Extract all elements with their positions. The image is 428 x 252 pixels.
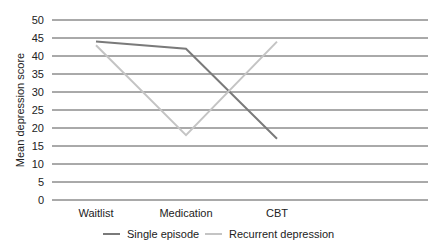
line-chart: 05101520253035404550 Mean depression sco… <box>0 0 428 252</box>
y-axis-label: Mean depression score <box>14 53 26 167</box>
y-tick-label: 0 <box>38 194 44 206</box>
y-tick-label: 15 <box>32 140 44 152</box>
y-tick-label: 10 <box>32 158 44 170</box>
legend-label: Single episode <box>127 228 199 240</box>
x-category-label: Medication <box>159 207 212 219</box>
x-axis-categories: WaitlistMedicationCBT <box>78 207 288 219</box>
legend-label: Recurrent depression <box>229 228 334 240</box>
y-tick-label: 50 <box>32 14 44 26</box>
y-tick-label: 40 <box>32 50 44 62</box>
y-tick-label: 30 <box>32 86 44 98</box>
y-tick-label: 25 <box>32 104 44 116</box>
x-category-label: CBT <box>266 207 288 219</box>
y-tick-label: 20 <box>32 122 44 134</box>
y-tick-label: 45 <box>32 32 44 44</box>
gridlines <box>52 20 428 200</box>
y-tick-label: 5 <box>38 176 44 188</box>
x-category-label: Waitlist <box>78 207 113 219</box>
y-tick-label: 35 <box>32 68 44 80</box>
y-axis-ticks: 05101520253035404550 <box>32 14 44 206</box>
legend: Single episodeRecurrent depression <box>103 228 334 240</box>
